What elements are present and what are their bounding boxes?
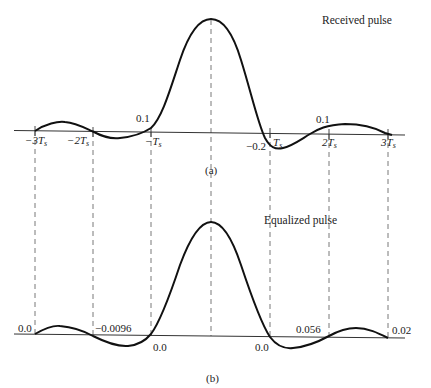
tick-label-minus-2Ts: −2Ts xyxy=(67,134,89,148)
value-label-plus-2T: 0.056 xyxy=(296,323,321,335)
value-label-plus-2T: 0.1 xyxy=(316,113,330,125)
tick-label-minus-3Ts: −3Ts xyxy=(25,134,47,148)
value-label-minus-T: 0.1 xyxy=(136,112,150,124)
value-label-minus-T: 0.0 xyxy=(153,341,167,353)
tick-label-Ts: Ts xyxy=(273,136,282,150)
tick-label-minus-Ts: −Ts xyxy=(145,135,162,149)
tick-label-2Ts: 2Ts xyxy=(322,136,337,150)
panel-a-caption: (a) xyxy=(205,164,218,177)
sample-guide-lines xyxy=(35,20,388,338)
value-label-plus-T: 0.0 xyxy=(255,341,269,353)
panel-b-axis xyxy=(14,334,405,338)
panel-a-title: Received pulse xyxy=(322,14,392,27)
received-pulse-curve xyxy=(35,19,392,149)
value-label-plus-T: −0.2 xyxy=(246,140,266,152)
panel-b-title: Equalized pulse xyxy=(264,214,337,227)
equalized-pulse-curve xyxy=(35,222,388,348)
panel-b-equalized-pulse: Equalized pulse 0.0 −0.0096 0.0 0.0 0.05… xyxy=(14,214,411,385)
panel-b-caption: (b) xyxy=(206,372,219,385)
value-label-plus-3T: 0.02 xyxy=(392,324,411,336)
panel-a-received-pulse: Received pulse 0.1 −0.2 0.1 −3Ts −2Ts −T… xyxy=(14,14,405,177)
value-label-minus-2T: −0.0096 xyxy=(95,322,132,334)
pulse-equalization-figure: Received pulse 0.1 −0.2 0.1 −3Ts −2Ts −T… xyxy=(0,0,431,388)
tick-label-3Ts: 3Ts xyxy=(380,136,396,150)
value-label-minus-3T: 0.0 xyxy=(18,322,32,334)
